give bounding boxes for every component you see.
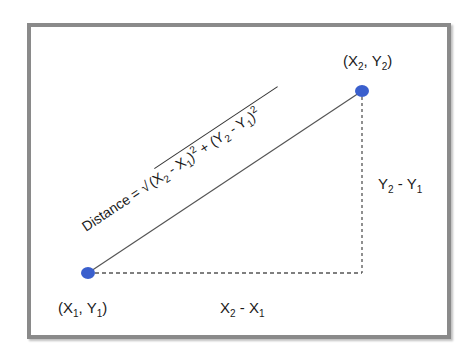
- svg-text:Distance = √(X2 - X1)2 + (Y2 -: Distance = √(X2 - X1)2 + (Y2 - Y1)2: [78, 103, 265, 237]
- point-2-marker: [355, 85, 369, 97]
- point-2-label: (X2, Y2): [343, 52, 392, 72]
- vertical-distance-label: Y2 - Y1: [378, 175, 423, 195]
- point-1-label: (X1, Y1): [58, 299, 107, 319]
- hypotenuse-line: [88, 91, 362, 273]
- horizontal-distance-label: X2 - X1: [220, 299, 265, 319]
- distance-formula: Distance = √(X2 - X1)2 + (Y2 - Y1)2: [78, 87, 290, 237]
- distance-diagram: (X1, Y1) (X2, Y2) X2 - X1 Y2 - Y1 Distan…: [0, 0, 472, 359]
- point-1-marker: [81, 267, 95, 279]
